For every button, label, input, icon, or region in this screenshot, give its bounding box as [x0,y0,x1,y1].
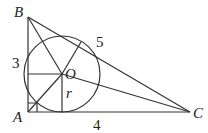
label-side-ac: 4 [93,117,101,133]
label-side-bc: 5 [96,34,104,50]
label-b: B [14,4,23,20]
label-r: r [66,85,72,101]
side-bc [28,17,190,112]
segment-oa [28,74,62,112]
label-c: C [193,105,204,121]
label-a: A [12,109,23,125]
triangle-incircle-diagram: B A C O r 3 5 4 [0,0,208,133]
label-side-ab: 3 [12,55,20,71]
segment-ob [28,17,62,74]
label-o: O [65,66,76,82]
